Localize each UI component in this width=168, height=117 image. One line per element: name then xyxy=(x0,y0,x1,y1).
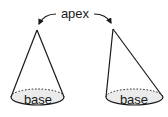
cone-slant-right xyxy=(37,30,64,97)
oblique-cone: base xyxy=(106,29,163,107)
cone-slant-left xyxy=(11,30,37,97)
base-label: base xyxy=(120,92,148,107)
right-cone: base xyxy=(11,30,64,107)
apex-label: apex xyxy=(61,6,90,21)
cone-slant-right xyxy=(113,29,163,97)
cone-slant-left xyxy=(106,29,113,97)
base-label: base xyxy=(24,92,52,107)
apex-arrow-right xyxy=(94,14,111,23)
apex-arrow-left xyxy=(39,14,56,24)
cones-diagram: apex base base xyxy=(0,0,168,117)
